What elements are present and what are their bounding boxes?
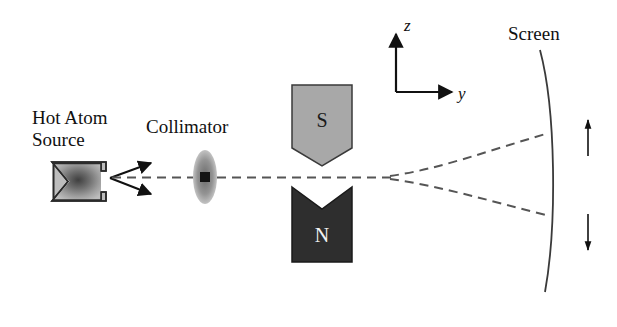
- screen-label: Screen: [508, 23, 560, 44]
- source-label-line1: Hot Atom: [32, 107, 108, 128]
- magnet-south-pole: S: [292, 85, 352, 166]
- source-label-line2: Source: [32, 129, 85, 150]
- beam-path-spin-down: [390, 179, 546, 215]
- collimator-aperture: [200, 172, 210, 182]
- coordinate-axes: z y: [396, 16, 466, 103]
- collimator-label: Collimator: [146, 116, 229, 137]
- diagram-canvas: Hot Atom Source Collimator S: [0, 0, 617, 327]
- axis-y-label: y: [456, 84, 466, 103]
- hot-atom-source: [52, 162, 106, 201]
- south-pole-letter: S: [316, 109, 327, 131]
- ray-lower-arrow: [110, 178, 151, 194]
- collimator: [193, 150, 217, 204]
- stern-gerlach-diagram: Hot Atom Source Collimator S: [0, 0, 617, 327]
- magnet-north-pole: N: [292, 187, 352, 262]
- detection-screen: [540, 50, 553, 292]
- north-pole-letter: N: [315, 224, 329, 246]
- split-beam-paths: [390, 133, 549, 215]
- axis-z-label: z: [403, 16, 411, 35]
- beam-path-spin-up: [390, 133, 549, 176]
- ray-upper-arrow: [110, 163, 151, 178]
